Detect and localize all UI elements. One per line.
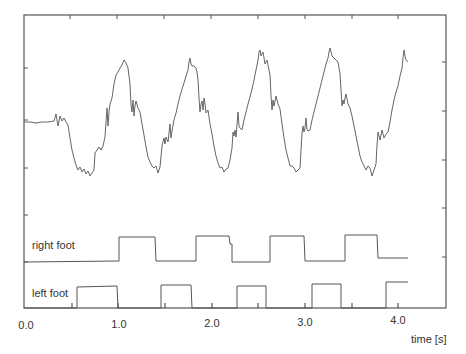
right-foot-label: right foot xyxy=(32,239,75,251)
gait-chart xyxy=(0,0,466,354)
x-axis-label: time [s] xyxy=(411,333,446,345)
right-foot-signal xyxy=(24,235,408,262)
plot-frame xyxy=(24,15,446,308)
x-tick-label-4: 4.0 xyxy=(390,314,405,326)
left-foot-label: left foot xyxy=(32,287,68,299)
x-tick-label-1: 1.0 xyxy=(111,318,126,330)
bottom-axis-ticks xyxy=(72,303,398,308)
body-signal-line xyxy=(24,48,408,176)
left-foot-signal xyxy=(24,282,408,308)
x-tick-label-2: 2.0 xyxy=(204,317,219,329)
x-tick-label-0: 0.0 xyxy=(18,319,33,331)
x-tick-label-3: 3.0 xyxy=(297,316,312,328)
